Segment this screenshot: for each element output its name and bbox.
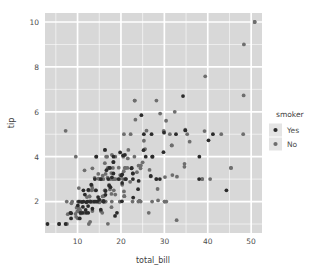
legend-item-label: Yes bbox=[286, 126, 299, 135]
y-tick-label: 10 bbox=[29, 18, 39, 27]
y-tick-label: 6 bbox=[34, 108, 39, 117]
x-tick-label: 30 bbox=[160, 237, 170, 246]
x-axis-title: total_bill bbox=[136, 256, 170, 265]
legend-item-label: No bbox=[287, 140, 298, 149]
x-tick-label: 10 bbox=[73, 237, 83, 246]
legend-key-dot bbox=[273, 142, 277, 146]
legend-key-dot bbox=[273, 128, 277, 132]
plot-canvas: 1020304050 246810 total_bill tip smoker … bbox=[0, 0, 335, 274]
x-tick-label: 50 bbox=[246, 237, 256, 246]
x-tick-label: 40 bbox=[203, 237, 213, 246]
y-tick-label: 2 bbox=[34, 197, 39, 206]
legend-title: smoker bbox=[276, 110, 304, 119]
scatter-plot-figure: 1020304050 246810 total_bill tip smoker … bbox=[0, 0, 335, 274]
y-tick-label: 4 bbox=[34, 153, 39, 162]
x-tick-label: 20 bbox=[116, 237, 126, 246]
y-tick-label: 8 bbox=[34, 63, 39, 72]
y-axis-title: tip bbox=[7, 118, 16, 128]
